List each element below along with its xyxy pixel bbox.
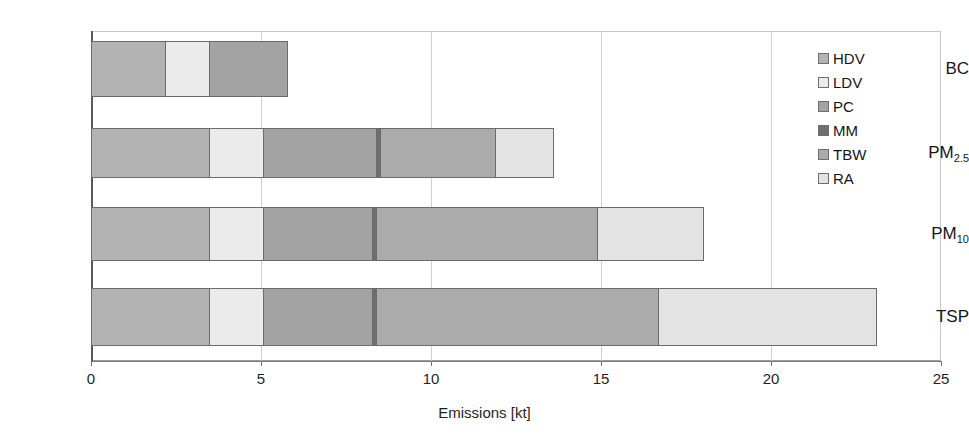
bar-segment-pm2-5-hdv <box>91 128 210 178</box>
tickmark <box>91 361 92 366</box>
legend-swatch-ra-icon <box>818 173 829 184</box>
bar-segment-pm10-ra <box>598 207 703 261</box>
tickmark <box>601 361 602 366</box>
x-tick-label: 25 <box>933 370 950 387</box>
bar-segment-pm10-pc <box>264 207 373 261</box>
legend-label: RA <box>833 171 854 186</box>
bar-segment-tsp-hdv <box>91 288 210 346</box>
legend-item-ra[interactable]: RA <box>818 166 941 190</box>
tickmark <box>771 361 772 366</box>
legend-swatch-mm-icon <box>818 125 829 136</box>
legend-item-tbw[interactable]: TBW <box>818 142 941 166</box>
legend: HDVLDVPCMMTBWRA <box>800 36 941 198</box>
bar-segment-tsp-pc <box>264 288 373 346</box>
legend-swatch-pc-icon <box>818 101 829 112</box>
bar-segment-bc-ldv <box>166 41 210 97</box>
legend-item-pc[interactable]: PC <box>818 94 941 118</box>
x-tick-label: 0 <box>87 370 95 387</box>
legend-label: MM <box>833 123 858 138</box>
emissions-stacked-bar-chart: 0510152025 BCPM2.5PM10TSP Emissions [kt]… <box>0 0 969 442</box>
x-axis-line <box>91 361 942 362</box>
bar-segment-bc-pc <box>210 41 288 97</box>
legend-label: TBW <box>833 147 866 162</box>
legend-item-hdv[interactable]: HDV <box>818 46 941 70</box>
tickmark <box>261 361 262 366</box>
bar-segment-pm2-5-ra <box>496 128 554 178</box>
tickmark <box>941 361 942 366</box>
bar-segment-tsp-tbw <box>377 288 659 346</box>
bar-segment-pm10-ldv <box>210 207 264 261</box>
x-tick-label: 15 <box>593 370 610 387</box>
legend-label: PC <box>833 99 854 114</box>
bar-segment-pm2-5-pc <box>264 128 376 178</box>
bar-segment-pm10-hdv <box>91 207 210 261</box>
bar-segment-pm2-5-ldv <box>210 128 264 178</box>
bar-segment-pm2-5-tbw <box>381 128 497 178</box>
bar-tsp <box>0 288 969 346</box>
bar-segment-bc-hdv <box>91 41 166 97</box>
bar-pm10 <box>0 207 969 261</box>
bar-segment-tsp-ra <box>659 288 877 346</box>
bar-segment-pm10-tbw <box>377 207 598 261</box>
legend-label: HDV <box>833 51 865 66</box>
x-axis-title: Emissions [kt] <box>0 404 969 421</box>
legend-label: LDV <box>833 75 862 90</box>
legend-swatch-tbw-icon <box>818 149 829 160</box>
x-tick-label: 5 <box>257 370 265 387</box>
tickmark <box>431 361 432 366</box>
legend-swatch-hdv-icon <box>818 53 829 64</box>
bar-segment-tsp-ldv <box>210 288 264 346</box>
legend-item-ldv[interactable]: LDV <box>818 70 941 94</box>
legend-swatch-ldv-icon <box>818 77 829 88</box>
x-tick-label: 10 <box>423 370 440 387</box>
x-tick-label: 20 <box>763 370 780 387</box>
legend-item-mm[interactable]: MM <box>818 118 941 142</box>
